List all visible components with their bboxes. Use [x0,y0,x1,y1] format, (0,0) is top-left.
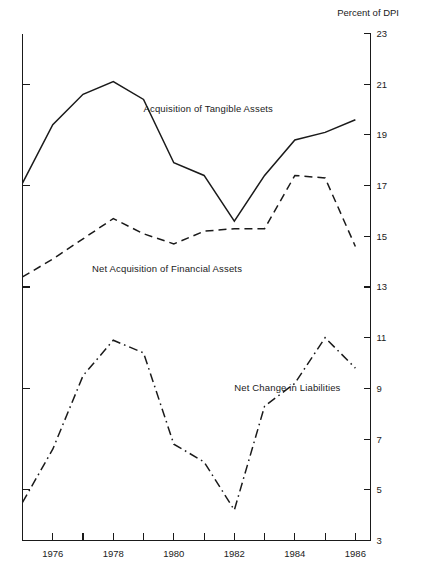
chart-container: 3579111315171921231976197819801982198419… [0,0,422,574]
x-tick-label: 1978 [103,548,124,559]
series-label-3: Net Change in Liabilities [234,382,340,393]
x-tick-label: 1980 [163,548,184,559]
y-tick-label: 7 [377,434,382,445]
axis-title: Percent of DPI [337,7,399,18]
chart-series [23,82,356,510]
y-tick-label: 3 [377,535,382,546]
y-tick-label: 13 [377,281,388,292]
series-label-2: Net Acquisition of Financial Assets [92,263,242,274]
y-tick-label: 11 [377,332,387,343]
y-tick-label: 17 [377,180,388,191]
chart-series-labels: Acquisition of Tangible AssetsNet Acquis… [92,103,341,393]
series-label-1: Acquisition of Tangible Assets [144,103,274,114]
y-tick-label: 21 [377,79,388,90]
y-tick-label: 5 [377,484,382,495]
line-chart: 3579111315171921231976197819801982198419… [0,0,422,574]
x-tick-label: 1976 [42,548,63,559]
y-tick-label: 9 [377,383,382,394]
series-line-2 [23,175,356,276]
y-tick-label: 15 [377,231,388,242]
x-tick-label: 1986 [345,548,366,559]
series-line-3 [23,338,356,510]
x-tick-label: 1984 [284,548,305,559]
x-tick-label: 1982 [224,548,245,559]
y-tick-label: 23 [377,28,388,39]
y-tick-label: 19 [377,129,388,140]
